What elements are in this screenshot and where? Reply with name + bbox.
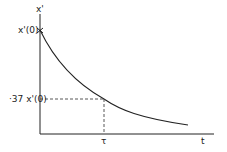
y-start-label: x'(0) bbox=[18, 26, 39, 35]
y-axis-label: x' bbox=[36, 5, 44, 14]
decay-chart bbox=[0, 0, 227, 152]
tau-label: τ bbox=[101, 137, 106, 146]
x-axis-label: t bbox=[201, 137, 205, 146]
y-037-label: ·37 x'(0) bbox=[9, 95, 47, 104]
decay-curve bbox=[40, 30, 188, 125]
